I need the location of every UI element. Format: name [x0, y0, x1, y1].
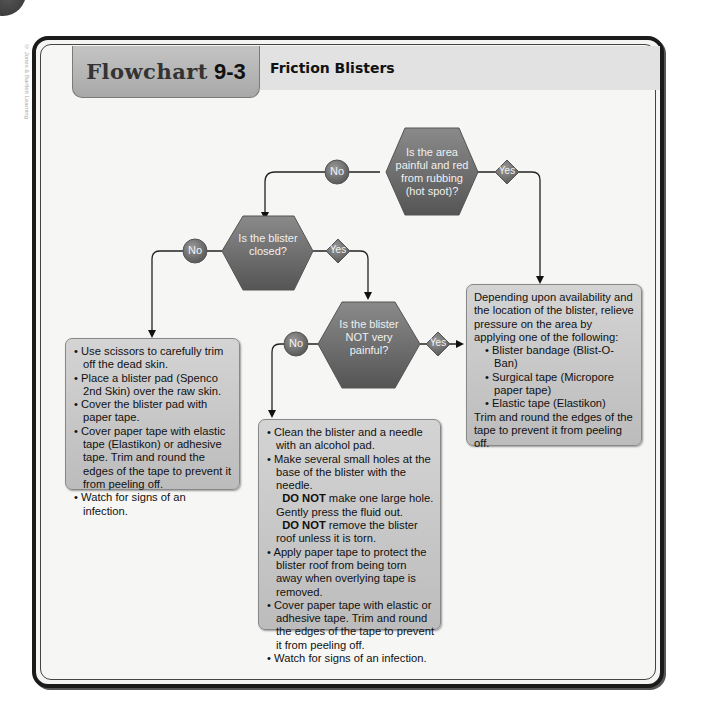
hotspot-item: Blister bandage (Blist-O-Ban)	[474, 344, 635, 371]
no-label-closed: No	[183, 244, 207, 256]
decision-closed-text: Is the blister closed?	[236, 232, 300, 258]
hotspot-item: Elastic tape (Elastikon)	[474, 397, 635, 410]
open-item: Cover paper tape with elastic tape (Elas…	[74, 425, 233, 491]
painful-item: Make several small holes at the base of …	[267, 453, 434, 546]
painful-item: Apply paper tape to protect the blister …	[267, 546, 434, 599]
no-label-painful: No	[284, 337, 308, 349]
painful-item: Cover paper tape with elastic or adhesiv…	[267, 599, 434, 652]
hotspot-intro: Depending upon availability and the loca…	[474, 291, 635, 344]
open-blister-box: Use scissors to carefully trim off the d…	[65, 338, 240, 490]
no-label-hotspot: No	[325, 165, 349, 177]
open-item: Use scissors to carefully trim off the d…	[74, 345, 233, 372]
hotspot-outro: Trim and round the edges of the tape to …	[474, 411, 635, 451]
hotspot-action-box: Depending upon availability and the loca…	[466, 284, 642, 446]
decision-hotspot-text: Is the area painful and red from rubbing…	[392, 146, 472, 198]
painful-item: Watch for signs of an infection.	[267, 652, 434, 665]
yes-label-closed: Yes	[324, 244, 352, 255]
open-item: Cover the blister pad with paper tape.	[74, 398, 233, 425]
painful-blister-box: Clean the blister and a needle with an a…	[258, 419, 441, 630]
open-item: Place a blister pad (Spenco 2nd Skin) ov…	[74, 372, 233, 399]
decision-painful-text: Is the blister NOT very painful?	[335, 318, 403, 357]
yes-label-hotspot: Yes	[493, 165, 521, 176]
yes-label-painful: Yes	[424, 337, 452, 348]
open-item: Watch for signs of an infection.	[74, 491, 233, 518]
painful-item: Clean the blister and a needle with an a…	[267, 426, 434, 453]
hotspot-item: Surgical tape (Micropore paper tape)	[474, 371, 635, 398]
